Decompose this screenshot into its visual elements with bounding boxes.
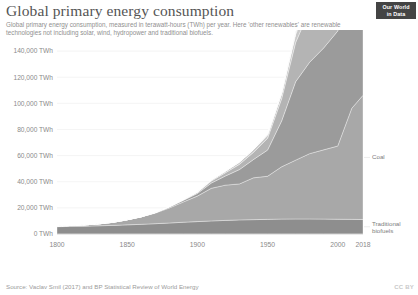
x-axis-tick-label: 2018 bbox=[355, 241, 370, 248]
y-axis-tick-label: 80,000 TWh bbox=[17, 126, 53, 133]
legend-label[interactable]: Crude oil bbox=[372, 30, 397, 31]
license-note[interactable]: CC BY bbox=[394, 284, 414, 290]
legend-leader-lines bbox=[364, 30, 370, 227]
stacked-areas-group bbox=[57, 30, 363, 234]
area-chart-svg: 0 TWh20,000 TWh40,000 TWh60,000 TWh80,00… bbox=[0, 30, 418, 266]
legend-label[interactable]: Coal bbox=[372, 153, 385, 160]
our-world-in-data-logo[interactable]: Our World in Data bbox=[376, 2, 416, 19]
legend-group: OtherrenewablesWindNuclearHydropowerNatu… bbox=[372, 30, 405, 234]
x-axis-tick-label: 1900 bbox=[190, 241, 205, 248]
area-band bbox=[57, 219, 363, 234]
logo-line-1: Our World bbox=[376, 4, 416, 11]
x-axis-tick-label: 1800 bbox=[49, 241, 64, 248]
y-axis-tick-labels: 0 TWh20,000 TWh40,000 TWh60,000 TWh80,00… bbox=[14, 47, 54, 237]
source-note: Source: Vaclav Smil (2017) and BP Statis… bbox=[6, 283, 199, 290]
y-axis-tick-label: 0 TWh bbox=[34, 230, 54, 237]
legend-label[interactable]: Traditionalbiofuels bbox=[372, 220, 401, 234]
y-axis-tick-label: 40,000 TWh bbox=[17, 178, 53, 185]
y-axis-tick-label: 100,000 TWh bbox=[14, 100, 54, 107]
y-axis-tick-label: 60,000 TWh bbox=[17, 152, 53, 159]
plot-area: 0 TWh20,000 TWh40,000 TWh60,000 TWh80,00… bbox=[0, 30, 418, 266]
y-axis-tick-label: 120,000 TWh bbox=[14, 74, 54, 81]
x-axis-tick-label: 2000 bbox=[330, 241, 345, 248]
y-axis-tick-label: 20,000 TWh bbox=[17, 204, 53, 211]
logo-line-2: in Data bbox=[376, 11, 416, 18]
page-title: Global primary energy consumption bbox=[6, 2, 366, 19]
chart-root: Global primary energy consumption Global… bbox=[0, 0, 418, 295]
x-axis-tick-label: 1850 bbox=[120, 241, 135, 248]
x-axis-tick-label: 1950 bbox=[260, 241, 275, 248]
x-axis-tick-labels: 180018501900195020002018 bbox=[49, 241, 370, 248]
y-axis-tick-label: 140,000 TWh bbox=[14, 47, 54, 54]
